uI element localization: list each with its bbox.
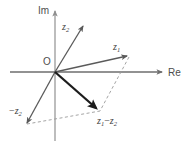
z2-label-subscript: 2 [66,26,70,33]
vector-z1 [55,56,127,72]
complex-plane-figure: Im Re O z2 z1 −z2 z1−z2 [0,0,191,147]
origin-label: O [43,56,51,67]
dashed-line-z1-to-difference [100,57,129,111]
real-axis-label: Re [168,67,181,78]
diff-label-subscript-2: 2 [114,120,118,127]
vector-z1-label: z1 [112,41,120,53]
vector-z1-minus-z2 [55,72,96,108]
dashed-line-minus-z2-to-difference [27,111,100,124]
vector-z2-label: z2 [61,21,70,33]
imaginary-axis-label: Im [38,5,49,16]
vector-minus-z2 [27,72,55,123]
vector-minus-z2-label: −z2 [9,105,23,117]
vector-z1-minus-z2-label: z1−z2 [96,115,118,127]
vector-diagram-canvas: Im Re O z2 z1 −z2 z1−z2 [0,0,191,147]
minus-z2-label-subscript: 2 [19,110,23,117]
z1-label-subscript: 1 [117,46,120,53]
